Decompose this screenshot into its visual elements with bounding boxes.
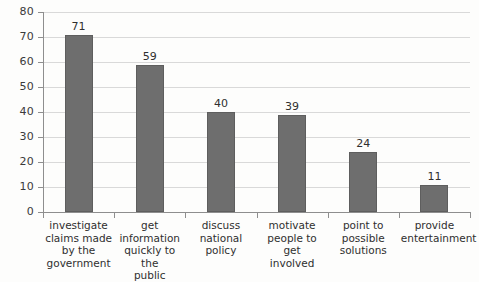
bar: 40 (207, 112, 235, 212)
category-label-line: people to get (259, 232, 326, 257)
category-label: getinformationquickly to thepublic (114, 219, 185, 282)
y-tick-label: 50 (0, 81, 34, 92)
category-label-line: by the (45, 244, 112, 257)
y-tick-label: 20 (0, 156, 34, 167)
category-label-line: national (187, 232, 254, 245)
category-label-line: get (116, 219, 183, 232)
bar-group: 59 (114, 12, 185, 212)
bar-group: 40 (185, 12, 256, 212)
category-label-line: discuss (187, 219, 254, 232)
bar-series: 715940392411 (43, 12, 470, 212)
bar-value-label: 24 (356, 138, 370, 149)
category-label-line: possible (330, 232, 397, 245)
category-label-line: point to (330, 219, 397, 232)
y-tick-label: 80 (0, 6, 34, 17)
category-label-line: policy (187, 244, 254, 257)
x-tick-mark (328, 212, 329, 218)
x-tick-mark (399, 212, 400, 218)
bar-value-label: 39 (285, 101, 299, 112)
category-label-line: involved (259, 257, 326, 270)
category-label: motivatepeople to getinvolved (257, 219, 328, 269)
category-label-line: solutions (330, 244, 397, 257)
bar-group: 24 (328, 12, 399, 212)
bar-group: 39 (257, 12, 328, 212)
bar-value-label: 71 (72, 21, 86, 32)
bar-group: 71 (43, 12, 114, 212)
category-label-line: information (116, 232, 183, 245)
category-label: point topossiblesolutions (328, 219, 399, 257)
y-tick-label: 30 (0, 131, 34, 142)
y-tick-label: 60 (0, 56, 34, 67)
category-label-line: government (45, 257, 112, 270)
bar-value-label: 11 (427, 171, 441, 182)
x-tick-mark (114, 212, 115, 218)
x-tick-mark (43, 212, 44, 218)
category-label-line: entertainment (401, 232, 468, 245)
y-tick-label: 70 (0, 31, 34, 42)
bar: 59 (136, 65, 164, 213)
x-tick-mark (470, 212, 471, 218)
x-axis-category-labels: investigateclaims madeby thegovernmentge… (43, 219, 470, 281)
bar: 11 (420, 185, 448, 213)
category-label-line: motivate (259, 219, 326, 232)
category-label: investigateclaims madeby thegovernment (43, 219, 114, 269)
category-label: provideentertainment (399, 219, 470, 244)
bar-value-label: 40 (214, 98, 228, 109)
x-tick-mark (257, 212, 258, 218)
bar: 39 (278, 115, 306, 213)
category-label-line: provide (401, 219, 468, 232)
category-label-line: investigate (45, 219, 112, 232)
bar-chart: 01020304050607080 715940392411 investiga… (0, 0, 479, 282)
y-tick-label: 0 (0, 206, 34, 217)
category-label-line: public (116, 269, 183, 282)
category-label: discussnationalpolicy (185, 219, 256, 257)
bar: 24 (349, 152, 377, 212)
x-tick-mark (185, 212, 186, 218)
bar: 71 (65, 35, 93, 213)
bar-value-label: 59 (143, 51, 157, 62)
category-label-line: claims made (45, 232, 112, 245)
category-label-line: quickly to the (116, 244, 183, 269)
bar-group: 11 (399, 12, 470, 212)
y-tick-label: 40 (0, 106, 34, 117)
y-tick-label: 10 (0, 181, 34, 192)
